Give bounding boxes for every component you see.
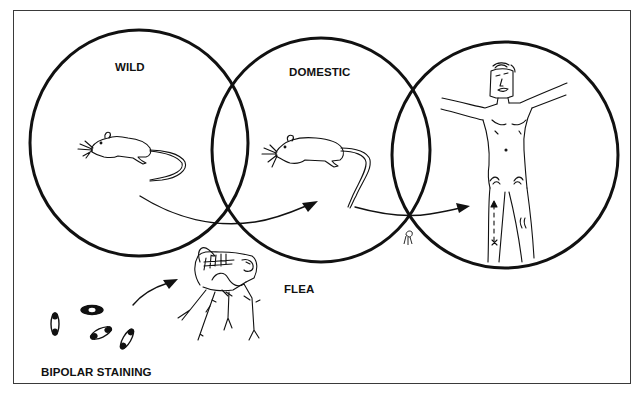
bacterium-icon <box>118 327 136 351</box>
domestic-label: DOMESTIC <box>289 66 351 78</box>
human-figure-icon <box>441 63 567 262</box>
bacterium-icon <box>51 313 59 336</box>
wild-rodent-icon <box>78 132 186 181</box>
bacterium-icon <box>88 324 114 342</box>
arrowhead-icon <box>302 201 318 212</box>
diagram-canvas <box>0 0 643 403</box>
domestic-rat-icon <box>262 135 370 208</box>
small-flea-icon <box>404 231 412 245</box>
arrow-bacteria-to-flea <box>133 283 168 305</box>
bacteria-icons <box>51 306 136 351</box>
human-circle <box>392 42 618 268</box>
arrowhead-icon <box>456 203 470 213</box>
bipolar-staining-label: BIPOLAR STAINING <box>41 366 152 378</box>
flea-label: FLEA <box>284 283 314 295</box>
wild-label: WILD <box>115 61 145 73</box>
bacterium-icon <box>81 306 103 315</box>
flea-icon <box>178 248 260 340</box>
